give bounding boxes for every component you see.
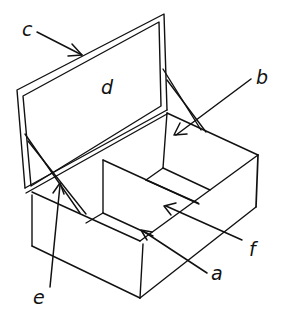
box-body — [32, 113, 258, 298]
arrow-b — [174, 79, 251, 135]
label-f: f — [249, 240, 256, 259]
arrow-a — [141, 230, 207, 273]
label-a: a — [211, 264, 223, 283]
label-c: c — [22, 20, 32, 39]
divider-panel — [103, 160, 199, 213]
arrow-c — [37, 32, 82, 56]
arrow-f — [164, 203, 242, 240]
label-b: b — [256, 68, 268, 87]
label-e: e — [33, 288, 45, 307]
arrow-e — [50, 183, 64, 287]
lid-frame — [17, 14, 167, 193]
right-lid-stay — [163, 69, 206, 132]
label-d: d — [101, 78, 113, 97]
